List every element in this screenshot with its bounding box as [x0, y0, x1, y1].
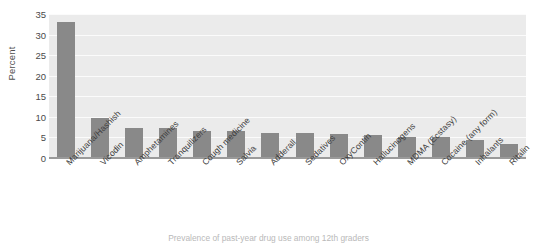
chart-caption: Prevalence of past-year drug use among 1…	[0, 233, 537, 243]
x-axis-tick-labels: Marijuana/HashishVicodinAmphetaminesTran…	[49, 158, 526, 243]
y-tick-label: 20	[18, 70, 46, 81]
y-tick-label: 15	[18, 91, 46, 102]
bar-chart-figure: Percent 05101520253035 Marijuana/Hashish…	[0, 0, 537, 243]
y-axis-title: Percent	[6, 29, 17, 99]
y-tick-label: 25	[18, 50, 46, 61]
y-tick-label: 10	[18, 111, 46, 122]
y-tick-label: 5	[18, 132, 46, 143]
y-tick-label: 35	[18, 9, 46, 20]
plot-area	[49, 14, 526, 158]
y-axis-tick-labels: 05101520253035	[18, 0, 46, 165]
bar	[57, 22, 75, 158]
y-tick-label: 30	[18, 29, 46, 40]
bar-series	[49, 14, 526, 158]
y-tick-label: 0	[18, 153, 46, 164]
